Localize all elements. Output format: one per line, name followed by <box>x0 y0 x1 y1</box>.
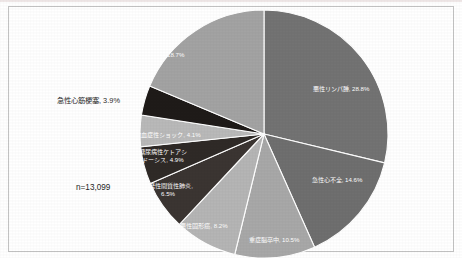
pie-slice-label: 悪性固形癌, 8.2% <box>180 222 228 230</box>
pie-slice-label: 急性心不全, 14.6% <box>312 176 363 184</box>
pie-chart-svg: 悪性リンパ腫, 28.8%急性心不全, 14.6%重症脳卒中, 10.5%悪性固… <box>0 0 462 258</box>
pie-slice-label: 急性心筋梗塞, 3.9% <box>57 96 120 105</box>
sample-size-label: n=13,099 <box>76 183 111 192</box>
pie-slice-label: 敗血症性ショック, 4.1% <box>135 131 201 139</box>
pie-slice-label: その他, 18.7% <box>146 51 185 59</box>
pie-slice-label: 悪性リンパ腫, 28.8% <box>313 85 370 93</box>
figure-page: 悪性リンパ腫, 28.8%急性心不全, 14.6%重症脳卒中, 10.5%悪性固… <box>0 0 462 258</box>
pie-chart-container: 悪性リンパ腫, 28.8%急性心不全, 14.6%重症脳卒中, 10.5%悪性固… <box>0 0 462 258</box>
pie-slice-label: 糖尿病性ケトアシドーシス, 4.9% <box>139 148 187 163</box>
pie-slice-label: 重症脳卒中, 10.5% <box>249 236 300 244</box>
